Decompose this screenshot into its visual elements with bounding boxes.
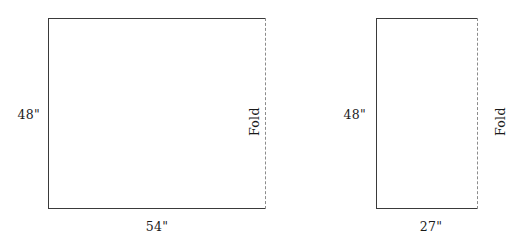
narrow-panel-width-label: 27" — [403, 221, 459, 234]
narrow-panel-figure: 48" 27" Fold — [0, 0, 520, 251]
narrow-panel-rectangle — [376, 18, 478, 209]
narrow-panel-height-label: 48" — [334, 109, 366, 122]
diagram-canvas: 48" 54" Fold 48" 27" Fold — [0, 0, 520, 251]
narrow-panel-fold-label: Fold — [495, 107, 508, 136]
narrow-panel-fold-line — [477, 18, 478, 209]
